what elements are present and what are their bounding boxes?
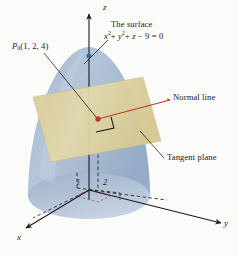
tick-label-two: 2 bbox=[103, 178, 107, 188]
x-axis-label: x bbox=[17, 232, 21, 242]
tangent-plane-label: Tangent plane bbox=[167, 153, 217, 163]
eq-zero: 0 bbox=[159, 31, 163, 41]
eq-equals: = bbox=[152, 31, 157, 41]
p0-coordinates: (1, 2, 4) bbox=[20, 41, 48, 51]
normal-line-label: Normal line bbox=[173, 93, 215, 103]
figure-container: The surface x2+ y2+ z − 9 = 0 P0(1, 2, 4… bbox=[0, 0, 238, 256]
z-axis-surface-intersection-dot bbox=[86, 53, 91, 58]
tick-label-one: 1 bbox=[76, 178, 80, 188]
surface-equation-label: x2+ y2+ z − 9 = 0 bbox=[104, 30, 163, 42]
point-p0-dot bbox=[95, 116, 100, 121]
eq-nine: 9 bbox=[145, 31, 149, 41]
eq-plus-2: + bbox=[125, 31, 130, 41]
point-p0-label: P0(1, 2, 4) bbox=[12, 42, 48, 52]
eq-plus-1: + bbox=[111, 31, 116, 41]
y-axis-label: y bbox=[224, 218, 228, 228]
eq-minus: − bbox=[138, 31, 143, 41]
surface-caption-label: The surface bbox=[111, 20, 152, 30]
eq-z: z bbox=[132, 31, 135, 41]
z-axis-label: z bbox=[103, 2, 107, 12]
leader-normal-line bbox=[167, 99, 170, 100]
